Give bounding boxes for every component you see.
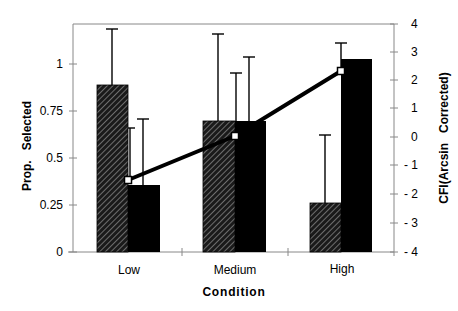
tick-label: 4 bbox=[411, 17, 418, 31]
y-axis-title: Prop. Selected bbox=[20, 101, 34, 191]
category-label: High bbox=[330, 262, 355, 276]
tick-label: - 3 bbox=[404, 216, 418, 230]
bar-high-black bbox=[341, 59, 372, 252]
tick-label: 1 bbox=[411, 101, 418, 115]
bar-high-hatched bbox=[310, 203, 341, 252]
x-axis-title: Condition bbox=[202, 285, 265, 299]
tick-label: 0.75 bbox=[40, 104, 64, 118]
tick-label: 0.5 bbox=[46, 151, 63, 165]
tick-label: 0 bbox=[56, 245, 63, 259]
bars bbox=[97, 59, 372, 252]
marker-medium bbox=[232, 133, 239, 140]
tick-label: 0 bbox=[411, 130, 418, 144]
bar-line-chart: 0 0.25 0.5 0.75 1 - 4 - 3 - 2 - 1 0 1 2 … bbox=[0, 0, 458, 311]
category-label: Medium bbox=[214, 263, 257, 277]
tick-label: - 1 bbox=[404, 158, 418, 172]
tick-label: - 4 bbox=[404, 245, 418, 259]
marker-high bbox=[338, 68, 345, 75]
y2-axis-title: CFI(Arcsin Corrected) bbox=[437, 72, 451, 203]
category-label: Low bbox=[118, 263, 140, 277]
tick-label: - 2 bbox=[404, 187, 418, 201]
left-axis-tick-labels: 0 0.25 0.5 0.75 1 bbox=[40, 57, 64, 259]
marker-low bbox=[125, 177, 132, 184]
bar-low-hatched bbox=[97, 85, 128, 252]
right-axis-tick-labels: - 4 - 3 - 2 - 1 0 1 2 3 4 bbox=[404, 17, 418, 259]
x-axis-tick-labels: Low Medium High bbox=[118, 262, 354, 277]
tick-label: 0.25 bbox=[40, 198, 64, 212]
tick-label: 2 bbox=[411, 73, 418, 87]
bar-low-black bbox=[128, 185, 160, 252]
tick-label: 1 bbox=[56, 57, 63, 71]
bar-medium-black bbox=[235, 121, 266, 252]
tick-label: 3 bbox=[411, 45, 418, 59]
